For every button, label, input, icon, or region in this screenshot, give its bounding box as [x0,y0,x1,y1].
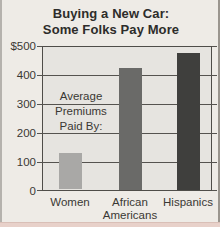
annotation-line2: Premiums [41,104,121,119]
page-edge-bottom [0,222,220,227]
annotation-average-premiums: Average Premiums Paid By: [41,89,121,134]
y-axis-label-200: 200 [0,126,36,141]
y-axis-label-300: 300 [0,97,36,112]
x-axis-label-line: Americans [88,209,172,222]
y-axis-label-500: $500 [0,39,36,54]
bar-hispanics [177,53,200,189]
chart-title: Buying a New Car: Some Folks Pay More [8,6,214,37]
y-axis-label-400: 400 [0,68,36,83]
chart-title-line2: Some Folks Pay More [8,22,214,38]
chart-title-line1: Buying a New Car: [8,6,214,22]
bar-women [59,153,82,189]
y-axis-label-100: 100 [0,155,36,170]
page-edge-right [218,0,220,227]
tick-0-left [37,190,42,191]
x-axis-label-line: Hispanics [146,196,220,209]
tick-500-right [212,46,217,47]
bar-chart-figure: Buying a New Car: Some Folks Pay More $5… [0,0,220,227]
x-axis-label-hispanics: Hispanics [146,196,220,209]
annotation-line3: Paid By: [41,119,121,134]
tick-500-left [37,46,42,47]
annotation-line1: Average [41,89,121,104]
bar-african-americans [119,68,142,190]
tick-0-right [212,190,217,191]
